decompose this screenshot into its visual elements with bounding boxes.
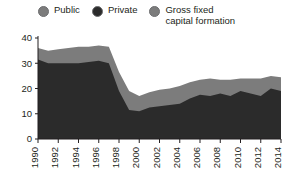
legend-item-public: Public — [38, 0, 80, 17]
x-axis-tick-label: 2010 — [232, 147, 243, 168]
y-axis-tick-label: 0 — [27, 133, 32, 144]
x-axis-tick-label: 2002 — [151, 147, 162, 168]
circle-swatch-icon-private — [92, 6, 103, 17]
x-axis-tick-label: 1990 — [29, 147, 40, 168]
legend-label-public: Public — [54, 5, 80, 16]
x-axis-tick-label: 2000 — [130, 147, 141, 168]
plot-area: 010203040 199019921994199619982000200220… — [0, 34, 295, 182]
x-axis-tick-label: 2004 — [171, 147, 182, 168]
x-axis-tick-label: 1994 — [70, 147, 81, 168]
chart-canvas: 010203040 199019921994199619982000200220… — [0, 34, 295, 182]
chart-legend: Public Private Gross fixed capital forma… — [0, 0, 295, 34]
series-layer — [38, 46, 281, 139]
x-axis-tick-labels: 1990199219941996199820002002200420062008… — [29, 147, 283, 168]
x-axis-tick-label: 2006 — [191, 147, 202, 168]
stacked-area-chart: Public Private Gross fixed capital forma… — [0, 0, 295, 182]
legend-label-private: Private — [108, 5, 138, 16]
y-axis-tick-label: 10 — [21, 108, 32, 119]
x-axis-tick-label: 2008 — [211, 147, 222, 168]
circle-swatch-icon-gross-fixed-capital-formation — [149, 6, 160, 17]
legend-label-gross-fixed-capital-formation: Gross fixed capital formation — [165, 5, 235, 26]
x-axis-tick-label: 2012 — [252, 147, 263, 168]
y-axis-tick-label: 30 — [21, 58, 32, 69]
x-axis-tick-label: 1996 — [90, 147, 101, 168]
circle-swatch-icon-public — [38, 6, 49, 17]
x-axis-tick-label: 1992 — [49, 147, 60, 168]
x-axis-tick-label: 1998 — [110, 147, 121, 168]
legend-item-gross-fixed-capital-formation: Gross fixed capital formation — [149, 0, 235, 26]
y-axis-tick-label: 40 — [21, 34, 32, 43]
x-axis-tick-label: 2014 — [272, 147, 283, 168]
y-axis-tick-label: 20 — [21, 83, 32, 94]
y-axis-tick-labels: 010203040 — [21, 34, 32, 144]
legend-item-private: Private — [92, 0, 138, 17]
